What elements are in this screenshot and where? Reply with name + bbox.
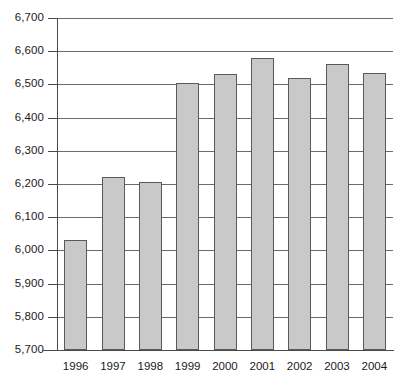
bar-1998[interactable] xyxy=(139,182,162,350)
y-axis-tick-label: 6,300 xyxy=(0,145,44,157)
y-axis-tick-label: 6,700 xyxy=(0,12,44,24)
y-axis-tick-label: 6,000 xyxy=(0,244,44,256)
x-axis-tick-label: 2002 xyxy=(281,361,318,373)
x-axis-tick-label: 1996 xyxy=(57,361,94,373)
bar-slot xyxy=(214,18,237,350)
bar-chart: 6,700 6,600 6,500 6,400 6,300 6,200 6,10… xyxy=(0,0,401,386)
bar-slot xyxy=(288,18,311,350)
x-axis-tick-label: 2001 xyxy=(244,361,281,373)
y-axis-tick-label: 6,500 xyxy=(0,78,44,90)
x-axis-tick-label: 1997 xyxy=(94,361,131,373)
y-axis-tick-label: 5,700 xyxy=(0,344,44,356)
bar-1997[interactable] xyxy=(102,177,125,350)
bar-series xyxy=(57,18,393,350)
bar-2004[interactable] xyxy=(363,73,386,350)
y-axis-tick-label: 6,200 xyxy=(0,178,44,190)
y-axis-tick-label: 5,900 xyxy=(0,278,44,290)
bar-2002[interactable] xyxy=(288,78,311,350)
y-axis-tick-label: 5,800 xyxy=(0,311,44,323)
bar-slot xyxy=(326,18,349,350)
bar-slot xyxy=(64,18,87,350)
y-axis-tick-label: 6,400 xyxy=(0,112,44,124)
bar-1996[interactable] xyxy=(64,240,87,350)
x-axis-tick-label: 2000 xyxy=(206,361,243,373)
bar-slot xyxy=(251,18,274,350)
x-axis-line xyxy=(42,350,394,351)
bar-2003[interactable] xyxy=(326,64,349,350)
bar-slot xyxy=(363,18,386,350)
bar-slot xyxy=(176,18,199,350)
x-axis-tick-label: 1999 xyxy=(169,361,206,373)
y-axis-tick-label: 6,600 xyxy=(0,45,44,57)
bar-2001[interactable] xyxy=(251,58,274,350)
bar-slot xyxy=(102,18,125,350)
bar-2000[interactable] xyxy=(214,74,237,350)
x-axis-tick-label: 2003 xyxy=(318,361,355,373)
x-axis-tick-label: 2004 xyxy=(356,361,393,373)
y-axis-tick-label: 6,100 xyxy=(0,211,44,223)
bar-slot xyxy=(139,18,162,350)
x-axis-tick-label: 1998 xyxy=(132,361,169,373)
bar-1999[interactable] xyxy=(176,83,199,350)
